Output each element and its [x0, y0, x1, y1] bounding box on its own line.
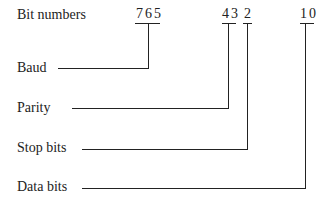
field-label-baud: Baud — [17, 60, 47, 76]
connector-baud-horizontal — [58, 68, 149, 69]
bit-group-2: 2 — [244, 6, 253, 22]
connector-databits-horizontal — [82, 188, 306, 189]
bit-group-10: 10 — [300, 6, 318, 22]
bit-group-43: 43 — [222, 6, 240, 22]
connector-parity-horizontal — [72, 108, 229, 109]
field-label-stop-bits: Stop bits — [17, 140, 66, 156]
bit-group-765: 765 — [136, 6, 163, 22]
connector-parity-vertical — [228, 23, 229, 109]
connector-databits-vertical — [305, 23, 306, 189]
underline-43 — [222, 23, 236, 24]
connector-baud-vertical — [148, 23, 149, 69]
connector-stopbits-horizontal — [82, 149, 248, 150]
field-label-data-bits: Data bits — [17, 179, 67, 195]
connector-stopbits-vertical — [247, 23, 248, 150]
bit-numbers-label: Bit numbers — [17, 7, 86, 23]
field-label-parity: Parity — [17, 100, 50, 116]
underline-10 — [300, 23, 314, 24]
